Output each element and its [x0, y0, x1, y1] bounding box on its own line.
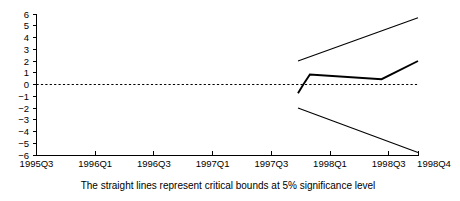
chart-caption: The straight lines represent critical bo… [81, 180, 376, 191]
x-tick-labels: 1995Q3 1996Q1 1996Q3 1997Q1 1997Q3 1998Q… [20, 158, 451, 169]
lower-critical-bound-line [298, 108, 418, 153]
x-tick-label: 1998Q4 [417, 158, 451, 169]
y-tick-label: 0 [24, 79, 29, 90]
cusum-chart: 6 5 4 3 2 1 0 −1 −2 −3 −4 −5 −6 19 [0, 0, 460, 201]
y-tick-label: −3 [18, 114, 29, 125]
x-tick-label: 1997Q3 [254, 158, 288, 169]
y-tick-marks [33, 14, 37, 155]
y-tick-label: 6 [24, 9, 29, 20]
x-tick-marks [37, 151, 419, 156]
y-tick-label: 4 [24, 32, 29, 43]
y-tick-label: 5 [24, 20, 29, 31]
x-tick-label: 1997Q1 [196, 158, 230, 169]
upper-critical-bound-line [298, 18, 418, 61]
chart-canvas: 6 5 4 3 2 1 0 −1 −2 −3 −4 −5 −6 19 [0, 0, 460, 201]
x-tick-label: 1998Q3 [372, 158, 406, 169]
x-tick-label: 1998Q1 [313, 158, 347, 169]
y-tick-label: 2 [24, 56, 29, 67]
y-tick-label: 3 [24, 44, 29, 55]
y-tick-label: 1 [24, 67, 29, 78]
x-tick-label: 1996Q1 [78, 158, 112, 169]
y-tick-label: −5 [18, 138, 29, 149]
x-tick-label: 1996Q3 [137, 158, 171, 169]
cusum-statistic-line [298, 61, 418, 93]
y-tick-label: −2 [18, 103, 29, 114]
y-tick-label: −4 [18, 126, 29, 137]
x-tick-label: 1995Q3 [20, 158, 54, 169]
y-tick-label: −1 [18, 91, 29, 102]
y-tick-labels: 6 5 4 3 2 1 0 −1 −2 −3 −4 −5 −6 [18, 9, 29, 161]
